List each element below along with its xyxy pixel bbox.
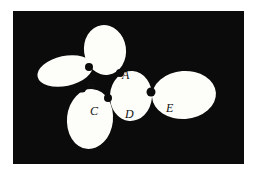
figure-page: A B C D E (0, 0, 257, 173)
figure-frame: A B C D E (13, 11, 244, 164)
label-a: A (122, 69, 129, 81)
label-b: B (87, 79, 94, 91)
junction-point-b (85, 63, 93, 71)
junction-point-c (78, 84, 87, 93)
disk-diagram-canvas (13, 11, 244, 164)
junction-point-e (147, 88, 156, 97)
label-c: C (90, 105, 98, 117)
label-d: D (125, 108, 134, 120)
label-e: E (166, 102, 173, 114)
junction-point-d (104, 94, 112, 102)
